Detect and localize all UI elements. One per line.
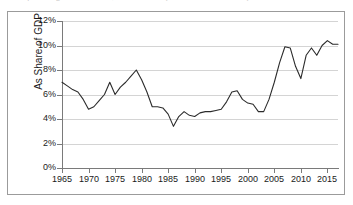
x-axis-tick-mark bbox=[301, 169, 302, 173]
series-polyline bbox=[62, 41, 338, 127]
y-axis-tick-label: 10% bbox=[2, 41, 56, 50]
x-axis-tick-mark bbox=[62, 169, 63, 173]
x-axis-tick-mark bbox=[195, 169, 196, 173]
x-axis-tick-mark bbox=[142, 169, 143, 173]
y-axis-tick-label: 8% bbox=[2, 65, 56, 74]
x-axis-tick-mark bbox=[274, 169, 275, 173]
y-axis-tick-label: 12% bbox=[2, 16, 56, 25]
y-axis-tick-label: 6% bbox=[2, 90, 56, 99]
x-axis-tick-label: 2015 bbox=[307, 174, 347, 184]
x-axis-line bbox=[62, 168, 339, 169]
figure-root: ated Spending on Children, 1965-2017 (as… bbox=[0, 0, 353, 205]
y-axis-tick-label: 0% bbox=[2, 163, 56, 172]
x-axis-tick-mark bbox=[115, 169, 116, 173]
y-axis-tick-label: 4% bbox=[2, 114, 56, 123]
cropped-title-residue: ated Spending on Children, 1965-2017 (as… bbox=[0, 0, 353, 5]
x-axis-tick-mark bbox=[248, 169, 249, 173]
x-axis-tick-mark bbox=[168, 169, 169, 173]
x-axis-tick-mark bbox=[221, 169, 222, 173]
x-axis-tick-mark bbox=[327, 169, 328, 173]
y-axis-tick-label: 2% bbox=[2, 139, 56, 148]
data-series-line bbox=[62, 21, 338, 168]
x-axis-tick-mark bbox=[89, 169, 90, 173]
